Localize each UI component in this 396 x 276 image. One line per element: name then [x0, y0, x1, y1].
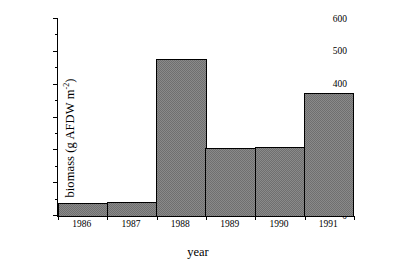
x-tick-label-1990: 1990: [254, 220, 303, 230]
x-tick-6: [354, 216, 355, 220]
x-tick-label-1991: 1991: [304, 220, 353, 230]
x-axis-label: year: [0, 245, 396, 260]
bar-1987: [107, 202, 157, 216]
x-tick-label-1988: 1988: [156, 220, 205, 230]
x-tick-label-1987: 1987: [106, 220, 155, 230]
bar-1989: [205, 148, 255, 216]
x-tick-label-1986: 1986: [57, 220, 106, 230]
bar-1988: [156, 59, 206, 216]
bar-1991: [304, 93, 354, 216]
bar-chart: biomass (g AFDW m-2) 0 100 200 300 400 5…: [0, 0, 396, 276]
x-axis-tick-labels: 1986 1987 1988 1989 1990 1991: [57, 220, 353, 230]
x-tick-label-1989: 1989: [205, 220, 254, 230]
bar-series: [58, 19, 354, 216]
bar-1990: [255, 147, 305, 216]
bar-1986: [58, 203, 108, 216]
plot-area: 0 100 200 300 400 500 600: [57, 19, 354, 217]
